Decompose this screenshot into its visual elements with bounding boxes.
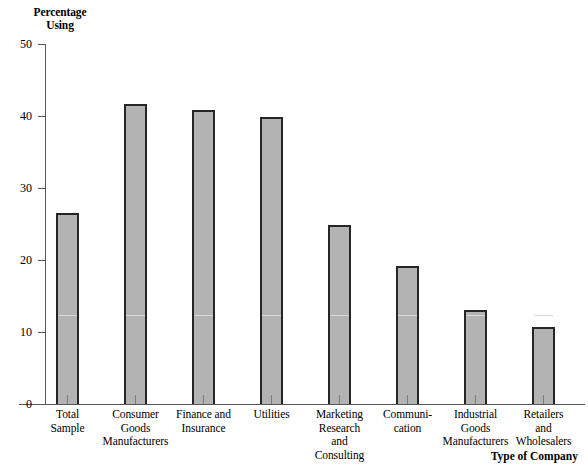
x-axis-category-label-line: Communi- [374,408,442,422]
bar-chart: Percentage Using 01020304050 TotalSample… [0,0,588,468]
x-axis-category-label-line: Goods [102,422,170,436]
bar-inner-gridline [126,315,145,316]
y-axis-tick-label: 50 [6,38,32,50]
x-axis-category-label-line: Consumer [102,408,170,422]
x-axis-category-label-line: Marketing [306,408,374,422]
x-axis-category-label-line: cation [374,422,442,436]
bar-inner-gridline [194,315,213,316]
bar [192,110,215,404]
x-axis-category-label-line: Industrial [442,408,510,422]
y-axis-title-line-1: Percentage [33,6,86,18]
y-axis-tick-label: 0 [6,398,32,410]
bar [532,327,555,404]
bar-foot-mark [203,395,204,404]
bar-foot-mark [135,395,136,404]
x-axis-category-label-line: Retailers [510,408,578,422]
bar-foot-mark [407,395,408,404]
x-axis-category-label: MarketingResearchandConsulting [306,408,374,462]
y-axis-tick-mark [38,44,45,45]
x-axis-category-label-line: Finance and [170,408,238,422]
bar-inner-gridline [330,315,349,316]
x-axis-category-label-line: Manufacturers [442,435,510,449]
y-axis-title-line-2: Using [12,19,108,32]
y-axis-tick-mark [38,188,45,189]
bar [396,266,419,404]
x-axis-category-label-line: Manufacturers [102,435,170,449]
x-axis-category-label: Communi-cation [374,408,442,435]
bar-inner-gridline [58,315,77,316]
x-axis-category-label-line: Total [34,408,102,422]
y-axis-tick-label: 30 [6,182,32,194]
bar-inner-gridline [398,315,417,316]
x-axis-category-label-line: Insurance [170,422,238,436]
x-axis-category-label-line: Utilities [238,408,306,422]
x-axis-category-label-line: and [306,435,374,449]
x-axis-category-label-line: Research [306,422,374,436]
bar-inner-gridline [262,315,281,316]
y-axis-tick-label: 10 [6,326,32,338]
x-axis-category-label-line: Wholesalers [510,435,578,449]
y-axis-tick-label: 40 [6,110,32,122]
bar-foot-mark [475,395,476,404]
x-axis-line [19,404,585,405]
y-axis-line [45,44,46,405]
x-axis-category-label-line: Consulting [306,449,374,463]
x-axis-category-label: RetailersandWholesalers [510,408,578,449]
x-axis-category-label: TotalSample [34,408,102,435]
x-axis-title: Type of Company [491,450,578,463]
bar [260,117,283,404]
bar [464,310,487,404]
x-axis-category-label: IndustrialGoodsManufacturers [442,408,510,449]
bar [328,225,351,404]
y-axis-tick-mark [38,332,45,333]
bar [56,213,79,404]
bar-inner-gridline [534,315,553,316]
y-axis-tick-mark [38,404,45,405]
x-axis-category-label: Utilities [238,408,306,422]
bar-foot-mark [339,395,340,404]
bar-foot-mark [543,395,544,404]
y-axis-tick-mark [38,116,45,117]
bar-foot-mark [67,395,68,404]
x-axis-category-label-line: and [510,422,578,436]
y-axis-title: Percentage Using [12,6,108,32]
bar-foot-mark [271,395,272,404]
bar [124,104,147,404]
x-axis-category-label-line: Goods [442,422,510,436]
x-axis-category-label: ConsumerGoodsManufacturers [102,408,170,449]
x-axis-category-label-line: Sample [34,422,102,436]
bar-inner-gridline [466,315,485,316]
y-axis-tick-mark [38,260,45,261]
y-axis-tick-label: 20 [6,254,32,266]
x-axis-category-label: Finance andInsurance [170,408,238,435]
